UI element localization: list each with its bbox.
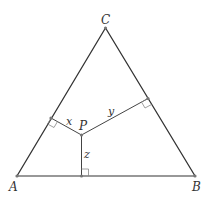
triangle-diagram: C A B P x y z <box>0 0 210 197</box>
label-z: z <box>83 148 90 161</box>
triangle-abc <box>17 28 195 176</box>
label-y: y <box>107 105 115 118</box>
label-p: P <box>78 119 88 133</box>
label-a: A <box>8 180 18 194</box>
point-p-dot <box>80 133 83 136</box>
foot-bc-dot <box>146 97 149 100</box>
label-c: C <box>101 13 110 27</box>
label-b: B <box>191 180 201 194</box>
label-x: x <box>66 115 73 128</box>
vertex-b-dot <box>193 174 196 177</box>
vertex-a-dot <box>15 174 18 177</box>
foot-ac-dot <box>49 116 52 119</box>
foot-ab-dot <box>80 174 83 177</box>
segment-y <box>82 99 149 136</box>
right-angle-marker-bc <box>142 99 152 109</box>
